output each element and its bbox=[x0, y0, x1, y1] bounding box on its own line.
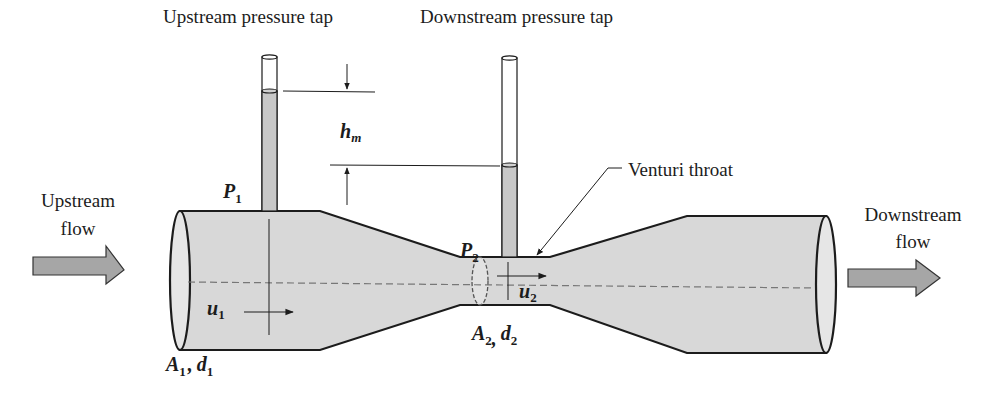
symbol-a2-d2: A2,d2 bbox=[470, 322, 517, 349]
downstream-flow-arrow-icon bbox=[848, 260, 940, 296]
downstream-pressure-tap-tube bbox=[502, 56, 517, 257]
upstream-flow-arrow-icon bbox=[33, 246, 124, 284]
upstream-pressure-tap-label: Upstream pressure tap bbox=[163, 6, 333, 27]
symbol-p1: P1 bbox=[222, 180, 242, 206]
downstream-flow-label-line2: flow bbox=[896, 231, 931, 252]
outlet-cross-section bbox=[816, 216, 836, 353]
venturi-diagram: Upstream pressure tap Downstream pressur… bbox=[0, 0, 1004, 393]
inlet-cross-section bbox=[170, 211, 190, 350]
upstream-flow-label-line1: Upstream bbox=[41, 190, 115, 211]
downstream-flow-label-line1: Downstream bbox=[864, 204, 961, 225]
upstream-flow-label-line2: flow bbox=[61, 218, 96, 239]
symbol-hm: hm bbox=[340, 120, 361, 145]
manometer-height-dimension bbox=[283, 64, 500, 205]
symbol-a1-d1: A1,d1 bbox=[164, 353, 213, 379]
venturi-throat-label: Venturi throat bbox=[628, 159, 734, 180]
downstream-pressure-tap-label: Downstream pressure tap bbox=[420, 6, 613, 27]
upstream-pressure-tap-tube bbox=[262, 55, 277, 211]
